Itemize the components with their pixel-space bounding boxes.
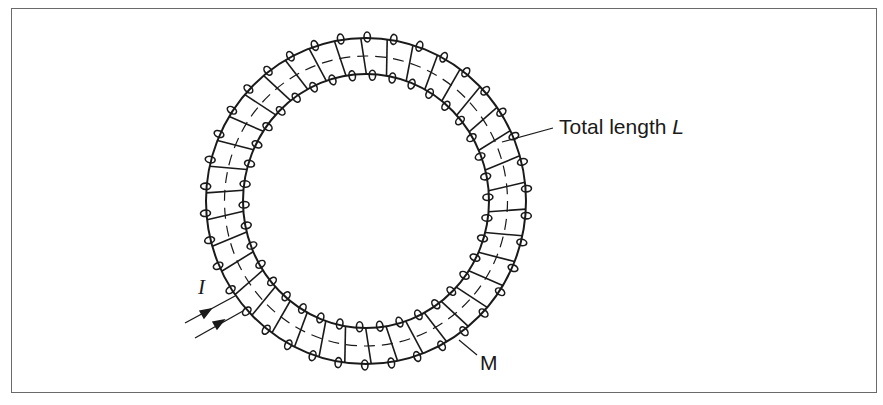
current-leads [185,296,243,338]
winding-loop-outer [334,357,342,368]
winding-loop-outer [310,40,320,52]
winding-turn [272,301,290,333]
winding-turn [386,326,398,361]
label-total-length: Total length L [559,116,684,137]
label-variable-l: L [672,115,684,138]
winding-turn [479,252,515,261]
winding-turn [424,313,446,342]
winding-loop-outer [507,263,519,273]
winding-turn [425,55,438,89]
mean-path-dashed [225,56,508,346]
winding-loop-inner [328,74,337,86]
label-current-i: I [198,277,205,298]
ring-core [206,38,526,364]
winding-loop-inner [336,319,344,330]
winding-turn [469,107,497,131]
winding-loop-inner [251,139,263,149]
winding-loop-inner [469,253,481,263]
winding-loop-outer [517,157,528,166]
winding-loop-inner [376,321,384,332]
winding-turns [200,32,532,370]
winding-turn [222,252,254,272]
winding-turn [469,271,503,286]
winding-turn [485,156,519,170]
outer-edge [206,38,526,364]
label-material-m: M [480,352,498,373]
winding-turn [285,60,307,89]
winding-loop-inner [482,214,493,221]
winding-turn [212,232,246,246]
arrow-icon [200,309,211,318]
winding-turn [387,39,388,75]
winding-turn [295,313,308,347]
winding-loop-outer [387,357,395,368]
toroid-diagram [0,0,883,405]
winding-turn [235,270,263,294]
winding-turn [345,326,346,362]
leader-material-m [459,340,477,355]
winding-turn [335,41,347,75]
winding-loop-inner [388,73,396,84]
winding-loop-outer [364,32,371,42]
winding-loop-outer [390,34,398,45]
winding-turn [218,140,254,149]
winding-loop-inner [483,194,493,201]
winding-loop-outer [361,360,368,370]
winding-loop-inner [395,316,404,328]
winding-turn [229,116,263,131]
winding-loop-inner [246,241,258,251]
winding-loop-outer [412,351,422,363]
label-total-length-text: Total length [559,115,672,138]
winding-turn [406,45,413,81]
winding-turn [485,233,522,236]
winding-turn [245,95,276,115]
winding-turn [210,166,247,169]
inner-edge [243,74,489,328]
winding-loop-inner [244,159,255,168]
winding-loop-outer [204,236,215,245]
winding-loop-inner [240,180,251,187]
winding-turn [406,321,423,353]
winding-loop-outer [337,33,345,44]
winding-turn [309,49,326,81]
winding-loop-inner [477,234,488,243]
winding-loop-inner [348,70,356,81]
winding-loop-outer [213,129,225,139]
winding-loop-inner [239,201,249,208]
winding-turn [456,287,487,307]
winding-turn [319,321,326,357]
winding-turn [442,69,460,101]
winding-loop-inner [474,152,486,162]
